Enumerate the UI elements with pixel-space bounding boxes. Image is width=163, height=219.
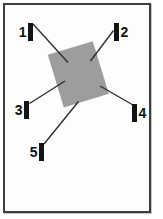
callout-label-2: 2 — [121, 24, 129, 40]
callout-marker-1 — [28, 23, 33, 41]
diagram-canvas: 12345 — [0, 0, 163, 219]
callout-label-3: 3 — [15, 102, 23, 118]
callout-line-4 — [100, 86, 133, 105]
scanned-figure: 12345 — [0, 0, 163, 219]
callout-marker-4 — [132, 104, 137, 122]
callout-label-4: 4 — [139, 105, 147, 121]
callout-label-5: 5 — [30, 144, 38, 160]
callout-line-5 — [44, 102, 79, 145]
callout-marker-5 — [39, 143, 44, 161]
callout-marker-2 — [114, 23, 119, 41]
callout-label-1: 1 — [19, 24, 27, 40]
callout-marker-3 — [24, 101, 29, 119]
